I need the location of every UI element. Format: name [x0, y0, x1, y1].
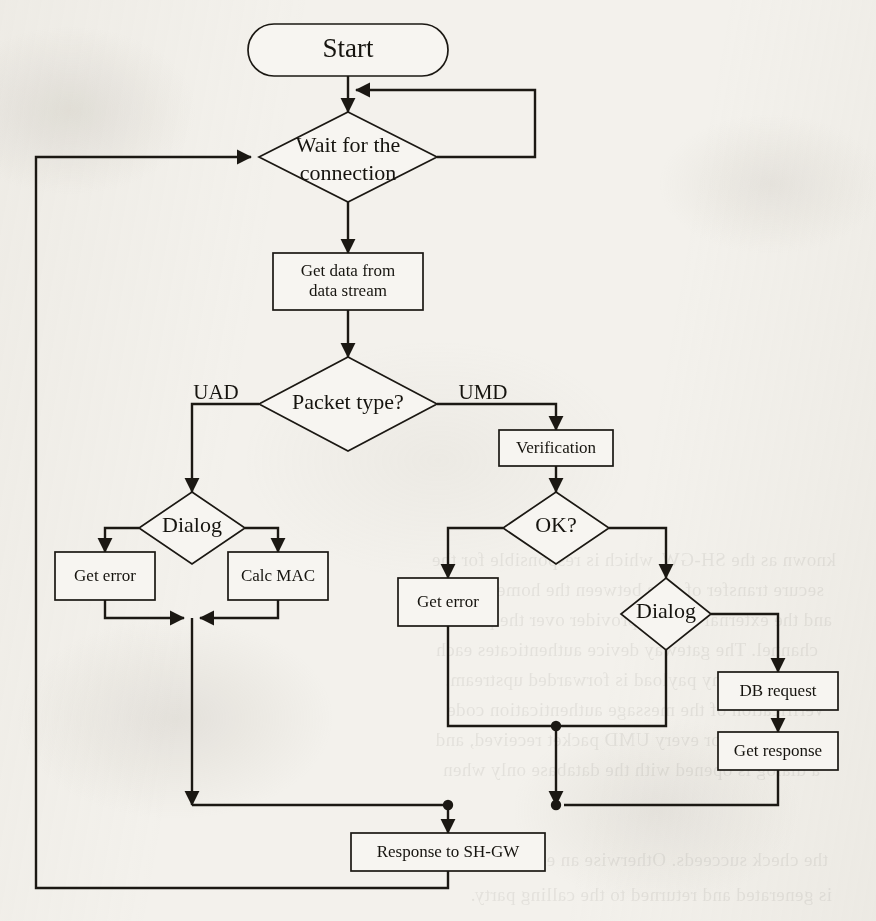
edge-bus-to-response-shgw: [192, 805, 448, 833]
edge-label-uad: UAD: [193, 380, 239, 404]
ok-label: OK?: [535, 512, 577, 537]
node-calc-mac[interactable]: Calc MAC: [228, 552, 328, 600]
node-dialog-right[interactable]: Dialog: [621, 578, 711, 650]
edge-ok-to-dialog-right: [609, 528, 666, 578]
get-data-label-line2: data stream: [309, 281, 387, 300]
edge-calc-mac-to-merge: [200, 600, 278, 618]
calc-mac-label: Calc MAC: [241, 566, 315, 585]
node-ok[interactable]: OK?: [503, 492, 609, 564]
dialog-right-label: Dialog: [636, 598, 696, 623]
edge-get-response-to-bus: [564, 770, 778, 805]
node-get-data[interactable]: Get data from data stream: [273, 253, 423, 310]
node-get-error-left[interactable]: Get error: [55, 552, 155, 600]
edge-label-umd: UMD: [458, 380, 507, 404]
edge-packet-type-uad-to-dialog-left: [192, 404, 259, 492]
get-error-left-label: Get error: [74, 566, 136, 585]
verification-label: Verification: [516, 438, 597, 457]
start-label: Start: [323, 33, 374, 63]
edge-dialog-left-to-calc-mac: [245, 528, 278, 552]
get-response-label: Get response: [734, 741, 822, 760]
packet-type-label: Packet type?: [292, 389, 404, 414]
edge-get-error-left-to-merge: [105, 600, 184, 618]
node-db-request[interactable]: DB request: [718, 672, 838, 710]
node-response-shgw[interactable]: Response to SH-GW: [351, 833, 545, 871]
edge-packet-type-umd-to-verification: [437, 404, 556, 430]
db-request-label: DB request: [740, 681, 817, 700]
node-wait-for-connection[interactable]: Wait for the connection: [259, 112, 437, 202]
dialog-left-label: Dialog: [162, 512, 222, 537]
flowchart-canvas: Start Wait for the connection Get data f…: [0, 0, 876, 921]
junction-dot-response-bus: [443, 800, 453, 810]
edge-get-error-right-to-junction: [448, 626, 556, 726]
node-get-response[interactable]: Get response: [718, 732, 838, 770]
node-start[interactable]: Start: [248, 24, 448, 76]
wait-label-line2: connection: [300, 160, 397, 185]
edge-dialog-left-to-get-error: [105, 528, 139, 552]
edge-dialog-right-bottom-to-junction: [556, 650, 666, 726]
edge-ok-to-get-error-right: [448, 528, 503, 578]
wait-label-line1: Wait for the: [296, 132, 401, 157]
flowchart-page: known as the SH-GW, which is responsible…: [0, 0, 876, 921]
get-data-label-line1: Get data from: [301, 261, 395, 280]
flow-edges: [36, 76, 778, 888]
edge-dialog-right-to-db-request: [711, 614, 778, 672]
response-shgw-label: Response to SH-GW: [377, 842, 521, 861]
junction-dot-bus-right: [551, 800, 561, 810]
node-verification[interactable]: Verification: [499, 430, 613, 466]
get-error-right-label: Get error: [417, 592, 479, 611]
junction-dot-right-branch: [551, 721, 561, 731]
node-packet-type[interactable]: Packet type?: [259, 357, 437, 451]
node-get-error-right[interactable]: Get error: [398, 578, 498, 626]
